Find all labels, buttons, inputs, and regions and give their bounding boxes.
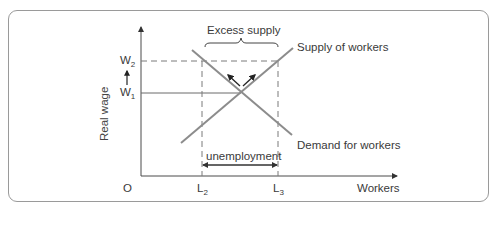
w1-tick-label: W1 — [120, 87, 135, 99]
l3-tick-label: L3 — [273, 183, 284, 195]
l3-sub: 3 — [279, 188, 283, 197]
unemployment-label: unemployment — [206, 151, 281, 163]
excess-supply-brace — [205, 38, 278, 47]
l2-sub: 2 — [203, 188, 207, 197]
supply-curve-label: Supply of workers — [297, 42, 388, 54]
w1-sub: 1 — [131, 92, 135, 101]
origin-label: O — [123, 183, 132, 195]
supply-curve — [181, 48, 293, 143]
x-axis-label: Workers — [357, 183, 400, 195]
y-axis-label: Real wage — [98, 87, 110, 141]
excess-supply-label: Excess supply — [207, 25, 281, 37]
l2-tick-label: L2 — [197, 183, 208, 195]
demand-shift-arrow — [228, 75, 240, 86]
demand-curve-label: Demand for workers — [297, 140, 401, 152]
w2-sub: 2 — [131, 60, 135, 69]
w2-tick-label: W2 — [120, 55, 135, 67]
w2-main: W — [120, 54, 131, 66]
w1-main: W — [120, 86, 131, 98]
